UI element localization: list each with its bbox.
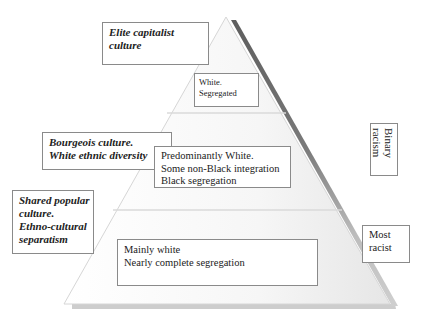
label-line: racism xyxy=(371,128,383,157)
label-line: Elite capitalist xyxy=(109,26,202,39)
tier-text: Black segregation xyxy=(161,175,284,188)
label-elite-capitalist-culture: Elite capitalist culture xyxy=(102,22,209,65)
label-line: Most xyxy=(369,229,403,242)
tier-middle-description: Predominantly White. Some non-Black inte… xyxy=(154,146,291,188)
tier-text: Mainly white xyxy=(124,244,311,257)
tier-text: Segregated xyxy=(199,88,254,99)
label-bourgeois-culture: Bourgeois culture. White ethnic diversit… xyxy=(42,132,172,170)
label-binary-racism: Binary racism xyxy=(370,123,398,176)
pyramid-base-shadow xyxy=(72,304,396,309)
label-line: culture xyxy=(109,39,202,52)
tier-text: White. xyxy=(199,77,254,88)
label-line: culture. xyxy=(19,207,87,220)
tier-text: Predominantly White. xyxy=(161,150,284,163)
label-line: Bourgeois culture. xyxy=(49,136,165,149)
label-line: Binary xyxy=(383,128,395,158)
tier-text: Some non-Black integration xyxy=(161,163,284,176)
label-line: Shared popular xyxy=(19,194,87,207)
tier-top-description: White. Segregated xyxy=(194,73,259,107)
tier-bottom-description: Mainly white Nearly complete segregation xyxy=(117,239,318,286)
label-line: racist xyxy=(369,242,403,255)
label-line: White ethnic diversity xyxy=(49,149,165,162)
label-shared-popular-culture: Shared popular culture. Ethno-cultural s… xyxy=(12,190,94,254)
label-line: Ethno-cultural xyxy=(19,220,87,233)
label-line: separatism xyxy=(19,233,87,246)
label-most-racist: Most racist xyxy=(362,225,410,263)
tier-text: Nearly complete segregation xyxy=(124,257,311,270)
